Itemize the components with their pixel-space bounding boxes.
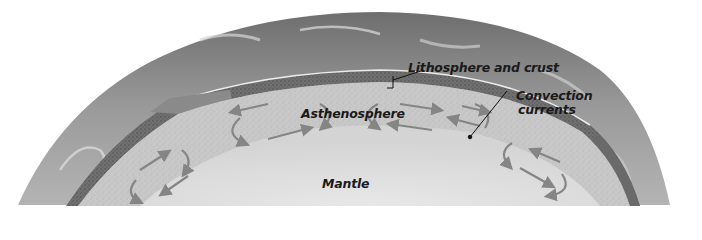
convection-label-line2: currents — [518, 103, 576, 117]
mantle-label: Mantle — [322, 177, 369, 191]
convection-label-line1: Convection — [516, 89, 592, 103]
asthenosphere-label: Asthenosphere — [301, 107, 405, 121]
lithosphere-label: Lithosphere and crust — [408, 61, 559, 75]
